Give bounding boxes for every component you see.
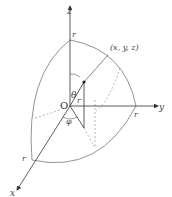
x-axis [17, 106, 70, 190]
point-marker [82, 80, 85, 83]
sphere-octant-outline [31, 40, 136, 163]
x-axis-label: x [10, 188, 15, 197]
leader-line [84, 55, 108, 82]
origin-label: O [60, 100, 68, 111]
y-axis-label: y [158, 102, 165, 112]
radius-label-x: r [22, 154, 27, 163]
radius-label-point: r [77, 96, 82, 105]
spherical-coordinates-diagram: z y x r r r r O (x, y, z) θ φ [0, 0, 172, 197]
hidden-dashed-lines [35, 68, 120, 148]
radius-label-z: r [72, 30, 77, 39]
point-label: (x, y, z) [110, 43, 139, 52]
phi-label: φ [66, 117, 72, 126]
theta-label: θ [71, 90, 77, 100]
theta-arc [70, 74, 80, 77]
z-axis-label: z [66, 6, 72, 16]
radius-label-y: r [134, 110, 139, 119]
